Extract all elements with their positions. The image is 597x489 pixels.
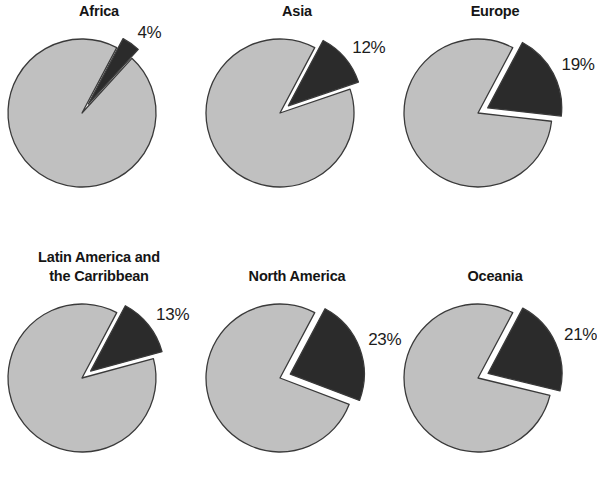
panel-title: North America xyxy=(198,267,396,286)
pie-slice-remainder xyxy=(8,39,156,187)
slice-percent-label: 4% xyxy=(137,23,161,43)
pie-panel: Latin America and the Carribbean13% xyxy=(0,248,198,461)
pie-svg xyxy=(396,286,594,461)
pie-panel: Africa4% xyxy=(0,2,198,196)
panel-title: Africa xyxy=(0,2,198,21)
pie-svg xyxy=(0,21,198,196)
slice-percent-label: 19% xyxy=(561,55,594,75)
pie-stage: 12% xyxy=(198,21,396,196)
panel-title: Latin America and the Carribbean xyxy=(0,248,198,286)
pie-svg xyxy=(198,286,396,461)
pie-panel: Asia12% xyxy=(198,2,396,196)
pie-panel: North America23% xyxy=(198,267,396,461)
slice-percent-label: 13% xyxy=(156,305,189,325)
pie-stage: 4% xyxy=(0,21,198,196)
panel-title: Europe xyxy=(396,2,594,21)
pie-stage: 23% xyxy=(198,286,396,461)
pie-panel: Oceania21% xyxy=(396,267,594,461)
slice-percent-label: 21% xyxy=(564,325,597,345)
panel-title: Oceania xyxy=(396,267,594,286)
slice-percent-label: 12% xyxy=(352,38,385,58)
pie-stage: 13% xyxy=(0,286,198,461)
pie-stage: 21% xyxy=(396,286,594,461)
pie-svg xyxy=(396,21,594,196)
pie-stage: 19% xyxy=(396,21,594,196)
panel-title: Asia xyxy=(198,2,396,21)
pie-panel: Europe19% xyxy=(396,2,594,196)
